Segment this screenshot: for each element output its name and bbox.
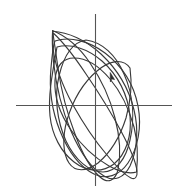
orbit-figure: [0, 0, 184, 189]
plot-background: [0, 0, 184, 189]
plot-canvas: [0, 0, 184, 189]
